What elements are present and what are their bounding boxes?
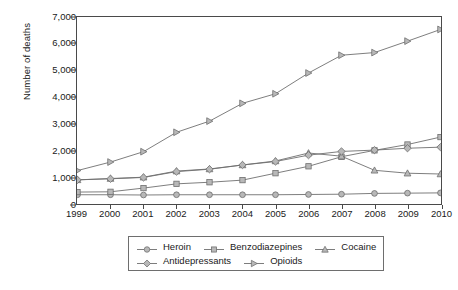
legend-marker-triangle-right-icon <box>243 255 265 266</box>
legend-marker-diamond-icon <box>136 255 158 266</box>
legend-marker-triangle-icon <box>314 241 336 252</box>
x-tick-mark <box>408 205 409 209</box>
legend-entry-heroin[interactable]: Heroin <box>136 241 191 252</box>
x-tick-label: 2010 <box>422 209 458 219</box>
legend-row-2: AntidepressantsOpioids <box>136 255 376 266</box>
legend-label: Opioids <box>270 256 302 266</box>
legend-label: Antidepressants <box>163 256 231 266</box>
x-tick-mark <box>276 205 277 209</box>
chart-figure: Number of deaths 01,0002,0003,0004,0005,… <box>0 0 458 290</box>
x-tick-mark <box>342 205 343 209</box>
x-tick-mark <box>309 205 310 209</box>
x-tick-mark <box>176 205 177 209</box>
legend-row-1: HeroinBenzodiazepinesCocaine <box>136 241 376 252</box>
legend-entry-opioids[interactable]: Opioids <box>243 255 302 266</box>
chart-legend: HeroinBenzodiazepinesCocaine Antidepress… <box>128 236 384 271</box>
x-tick-mark <box>242 205 243 209</box>
legend-label: Benzodiazepines <box>230 242 302 252</box>
legend-label: Heroin <box>163 242 191 252</box>
caption-strip <box>0 284 458 290</box>
legend-entry-cocaine[interactable]: Cocaine <box>314 241 376 252</box>
legend-label: Cocaine <box>341 242 376 252</box>
legend-marker-square-icon <box>203 241 225 252</box>
x-tick-mark <box>442 205 443 209</box>
x-tick-mark <box>375 205 376 209</box>
legend-entry-benzodiazepines[interactable]: Benzodiazepines <box>203 241 302 252</box>
legend-marker-circle-icon <box>136 241 158 252</box>
legend-entry-antidepressants[interactable]: Antidepressants <box>136 255 231 266</box>
x-tick-mark <box>209 205 210 209</box>
x-tick-mark <box>143 205 144 209</box>
x-tick-mark <box>110 205 111 209</box>
